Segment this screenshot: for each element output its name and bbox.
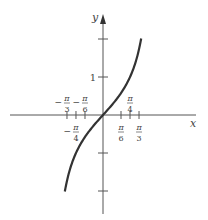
y-axis-arrow-icon <box>100 14 106 24</box>
svg-text:π: π <box>72 123 79 132</box>
svg-text:π: π <box>126 94 133 103</box>
svg-text:−: − <box>54 97 62 107</box>
svg-text:1: 1 <box>90 72 96 83</box>
tan-graph: y x π3−π4−π6−π6π4π31 <box>0 0 208 220</box>
svg-text:π: π <box>117 123 124 132</box>
svg-text:π: π <box>135 123 142 132</box>
svg-text:6: 6 <box>82 105 87 114</box>
y-axis-label: y <box>91 11 99 24</box>
svg-text:π: π <box>63 94 70 103</box>
svg-text:−: − <box>63 126 71 136</box>
svg-text:−: − <box>72 97 80 107</box>
svg-text:3: 3 <box>64 105 69 114</box>
x-axis-label: x <box>190 117 197 130</box>
svg-text:4: 4 <box>73 134 78 143</box>
svg-text:π: π <box>81 94 88 103</box>
svg-text:6: 6 <box>118 134 123 143</box>
svg-text:4: 4 <box>127 105 132 114</box>
svg-text:3: 3 <box>136 134 141 143</box>
